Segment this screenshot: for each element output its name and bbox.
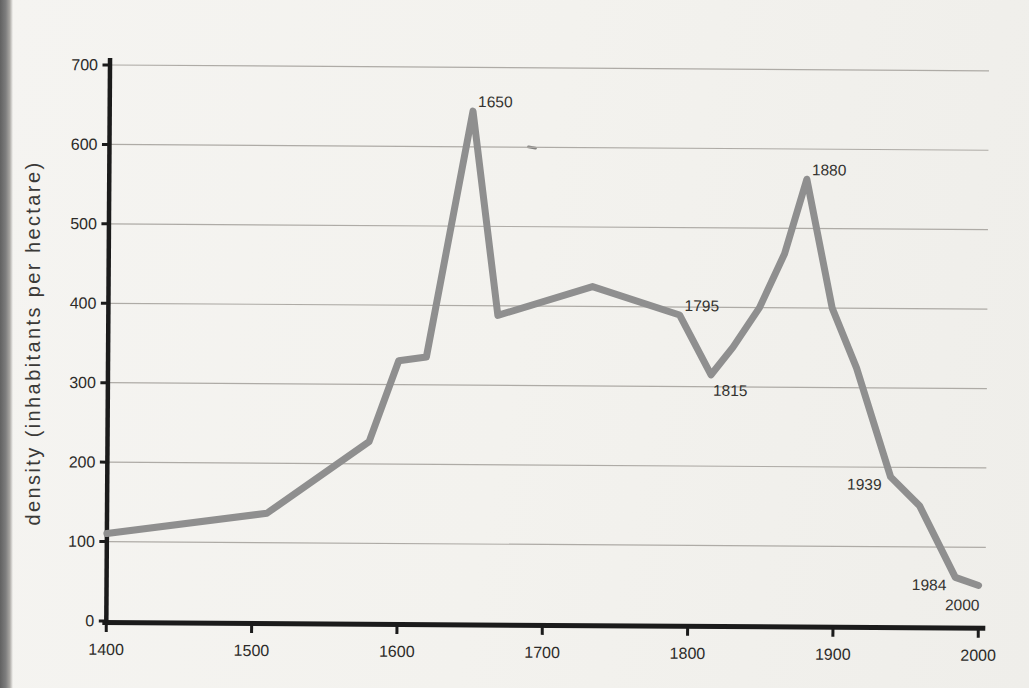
gridline <box>108 383 987 389</box>
gridline <box>107 462 986 468</box>
density-line-chart: 0100200300400500600700140015001600170018… <box>0 0 1029 688</box>
scanned-chart-page: 0100200300400500600700140015001600170018… <box>0 0 1029 688</box>
point-label-1984: 1984 <box>912 576 947 593</box>
x-axis <box>102 622 985 628</box>
gridline <box>107 542 986 548</box>
y-tick-label-700: 700 <box>71 56 98 73</box>
gridline <box>109 224 988 230</box>
point-label-1939: 1939 <box>847 476 882 493</box>
y-tick-label-0: 0 <box>85 612 94 629</box>
point-label-1815: 1815 <box>713 382 748 399</box>
gridline <box>110 65 989 71</box>
x-tick-label-2000: 2000 <box>960 647 996 664</box>
y-tick-label-400: 400 <box>70 295 97 312</box>
x-tick-label-1700: 1700 <box>524 644 560 661</box>
x-tick-label-1500: 1500 <box>234 642 270 659</box>
plot-area: 0100200300400500600700140015001600170018… <box>67 56 1000 664</box>
x-tick-label-1800: 1800 <box>670 645 706 662</box>
x-tick-label-1400: 1400 <box>88 641 124 658</box>
point-label-1650: 1650 <box>478 93 513 110</box>
gridline <box>109 144 988 150</box>
x-tick-label-1600: 1600 <box>379 643 415 660</box>
x-tick-label-1900: 1900 <box>815 646 851 663</box>
gridline <box>108 303 987 309</box>
point-label-1880: 1880 <box>812 161 847 178</box>
point-label-2000: 2000 <box>945 596 980 613</box>
y-tick-label-100: 100 <box>68 533 95 550</box>
y-tick-label-600: 600 <box>71 136 98 153</box>
point-label-1795: 1795 <box>685 297 720 314</box>
y-tick-label-500: 500 <box>70 215 97 232</box>
data-line-density <box>107 109 982 586</box>
y-axis-title: density (inhabitants per hectare) <box>22 161 44 526</box>
y-tick-label-200: 200 <box>69 453 96 470</box>
y-tick-label-300: 300 <box>69 374 96 391</box>
